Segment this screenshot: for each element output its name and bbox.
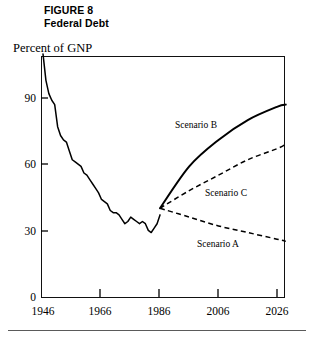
y-axis-labels: 90 60 30 0 bbox=[25, 92, 37, 303]
figure-container: FIGURE 8 Federal Debt Percent of GNP 90 … bbox=[0, 0, 314, 338]
x-axis-ticks bbox=[100, 289, 277, 297]
y-tick-label-60: 60 bbox=[25, 158, 37, 170]
label-scenario-c: Scenario C bbox=[205, 188, 247, 198]
y-tick-label-0: 0 bbox=[30, 291, 36, 303]
y-tick-label-90: 90 bbox=[25, 92, 37, 104]
series-historical bbox=[43, 54, 160, 233]
chart-canvas: 90 60 30 0 1946 1966 1986 2006 2026 Scen… bbox=[0, 0, 314, 338]
footer-rule bbox=[8, 330, 306, 331]
label-scenario-a: Scenario A bbox=[197, 239, 239, 249]
label-scenario-b: Scenario B bbox=[175, 120, 217, 130]
series-scenario-a bbox=[160, 208, 286, 241]
x-tick-label-1986: 1986 bbox=[148, 305, 171, 317]
y-tick-label-30: 30 bbox=[25, 225, 37, 237]
x-tick-label-1966: 1966 bbox=[89, 305, 112, 317]
y-axis-ticks bbox=[41, 98, 48, 231]
series-scenario-c bbox=[160, 144, 286, 208]
x-axis-labels: 1946 1966 1986 2006 2026 bbox=[32, 305, 289, 317]
x-tick-label-2026: 2026 bbox=[266, 305, 289, 317]
x-tick-label-1946: 1946 bbox=[32, 305, 55, 317]
x-tick-label-2006: 2006 bbox=[207, 305, 230, 317]
